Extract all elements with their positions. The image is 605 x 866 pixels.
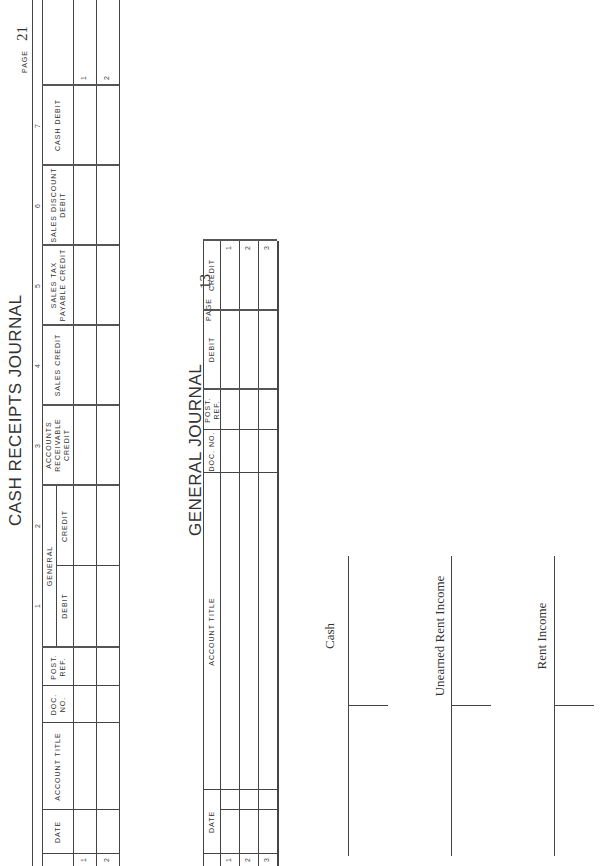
crj-top-border bbox=[32, 0, 33, 866]
crj-header-cash-debit: CASH DEBIT bbox=[42, 86, 73, 164]
rotated-sheet: CASH RECEIPTS JOURNAL PAGE 21 1 2 3 4 5 … bbox=[0, 0, 605, 866]
col-num-1: 1 bbox=[34, 566, 41, 646]
col-num-2: 2 bbox=[34, 486, 41, 566]
t-account-crossbar bbox=[348, 556, 349, 856]
crj-header-general-credit: CREDIT bbox=[56, 486, 73, 566]
gj-header-date: DATE bbox=[203, 790, 220, 854]
crj-header-account-title: ACCOUNT TITLE bbox=[42, 723, 73, 810]
t-account-stem bbox=[554, 705, 594, 706]
crj-header-date: DATE bbox=[42, 810, 73, 854]
gj-header-debit: DEBIT bbox=[203, 311, 220, 388]
t-account-stem bbox=[348, 705, 388, 706]
t-account-stem bbox=[451, 705, 491, 706]
gj-header-bottom bbox=[220, 241, 221, 866]
col-num-6: 6 bbox=[34, 166, 41, 246]
gj-header-credit: CREDIT bbox=[203, 241, 220, 309]
gj-row-line bbox=[258, 241, 259, 866]
crj-header-post-ref: POST. REF. bbox=[42, 648, 73, 686]
gj-header-post-ref: POST. REF. bbox=[203, 390, 220, 430]
t-account-title: Unearned Rent Income bbox=[432, 506, 448, 766]
t-account-title: Cash bbox=[322, 556, 338, 716]
gj-row-number-right: 2 bbox=[244, 242, 251, 254]
crj-row-number-right: 1 bbox=[80, 72, 87, 84]
crj-header-sales-discount-debit: SALES DISCOUNT DEBIT bbox=[42, 166, 73, 244]
crj-header-bottom bbox=[73, 0, 74, 866]
col-num-7: 7 bbox=[34, 86, 41, 166]
cash-receipts-journal-title: CASH RECEIPTS JOURNAL bbox=[6, 294, 26, 526]
crj-row2-bottom bbox=[119, 0, 120, 866]
gj-bottom-border bbox=[277, 241, 279, 866]
crj-header-general: GENERAL bbox=[42, 486, 56, 646]
gj-row-number-right: 3 bbox=[263, 242, 270, 254]
col-num-4: 4 bbox=[34, 326, 41, 406]
crj-row-number-right: 2 bbox=[103, 72, 110, 84]
col-num-5: 5 bbox=[34, 246, 41, 326]
gj-row-number-right: 1 bbox=[225, 242, 232, 254]
crj-header-sales-credit: SALES CREDIT bbox=[42, 326, 73, 404]
gj-divider bbox=[220, 809, 277, 810]
crj-header-accounts-receivable-credit: ACCOUNTS RECEIVABLE CREDIT bbox=[42, 406, 73, 484]
t-account-crossbar bbox=[554, 556, 555, 856]
gj-header-account-title: ACCOUNT TITLE bbox=[203, 473, 220, 790]
col-num-3: 3 bbox=[34, 406, 41, 486]
t-account-title: Rent Income bbox=[534, 506, 550, 766]
crj-row1-bottom bbox=[96, 0, 97, 866]
crj-header-general-debit: DEBIT bbox=[56, 566, 73, 646]
gj-row-number: 1 bbox=[225, 854, 232, 866]
crj-header-doc-no: DOC. NO. bbox=[42, 686, 73, 723]
crj-page-label: PAGE bbox=[21, 50, 28, 73]
gj-row-number: 3 bbox=[263, 854, 270, 866]
gj-header-doc-no: DOC. NO. bbox=[203, 430, 220, 473]
crj-page-number: 21 bbox=[14, 26, 31, 41]
crj-row-number: 2 bbox=[103, 854, 110, 866]
t-account-crossbar bbox=[451, 556, 452, 856]
gj-row-number: 2 bbox=[244, 854, 251, 866]
gj-row-line bbox=[239, 241, 240, 866]
crj-row-number: 1 bbox=[80, 854, 87, 866]
crj-header-sales-tax-payable-credit: SALES TAX PAYABLE CREDIT bbox=[42, 246, 73, 324]
